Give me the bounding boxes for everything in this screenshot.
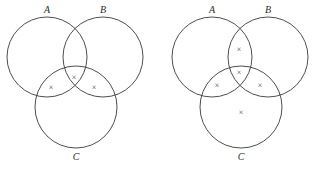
venn-circle-b <box>228 17 308 97</box>
set-label-a: A <box>208 4 216 15</box>
venn-diagram-figure: ABC×××ABC××××× <box>0 0 315 170</box>
mark-a-b-c: × <box>72 73 77 82</box>
set-label-a: A <box>43 4 51 15</box>
set-label-b: B <box>265 4 271 15</box>
mark-a-b: × <box>237 45 242 54</box>
right-venn-diagram: ABC××××× <box>165 0 315 170</box>
set-label-c: C <box>238 151 245 162</box>
mark-b-c: × <box>258 81 263 90</box>
venn-circle-b <box>63 17 143 97</box>
mark-b-c: × <box>92 83 97 92</box>
mark-a-b-c: × <box>237 68 242 77</box>
set-label-c: C <box>73 151 80 162</box>
mark-a-c: × <box>49 83 54 92</box>
set-label-b: B <box>100 4 106 15</box>
mark-c-only: × <box>239 108 244 117</box>
mark-a-c: × <box>215 81 220 90</box>
left-venn-diagram: ABC××× <box>0 0 150 170</box>
